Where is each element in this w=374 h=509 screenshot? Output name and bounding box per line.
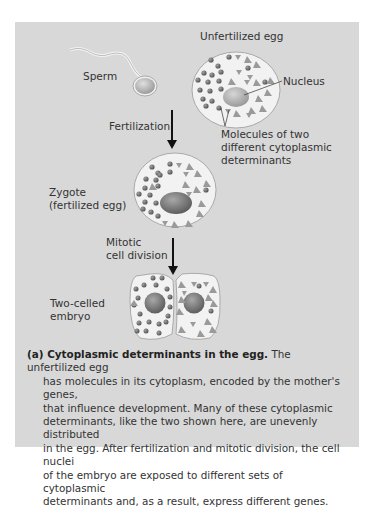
caption-title: (a) Cytoplasmic determinants in the egg. [27,348,268,360]
two-celled-label-line2: embryo [50,310,90,323]
two-celled-embryo-icon [130,273,220,339]
caption-line: determinants, like the two shown here, a… [27,415,347,442]
caption-line: that influence development. Many of thes… [27,402,347,415]
mitotic-label-line1: Mitotic [106,236,141,249]
unfertilized-egg-label: Unfertilized egg [200,30,283,43]
caption-line: has molecules in its cytoplasm, encoded … [27,375,347,402]
mitotic-label-line2: cell division [106,249,168,262]
caption-line: of the embryo are exposed to different s… [27,469,347,496]
mitotic-division-arrow-icon [168,238,178,275]
molecules-label-line1: Molecules of two [221,128,309,141]
nucleus-label: Nucleus [283,75,325,88]
caption-line: in the egg. After fertilization and mito… [27,442,347,469]
fertilization-label: Fertilization [109,120,170,133]
molecules-label-line2: different cytoplasmic [221,141,332,154]
figure-caption: (a) Cytoplasmic determinants in the egg.… [27,348,347,509]
molecules-label-line3: determinants [221,154,291,167]
zygote-label-line2: (fertilized egg) [49,199,126,212]
two-celled-label-line1: Two-celled [50,297,105,310]
sperm-label: Sperm [83,70,117,83]
zygote-label-line1: Zygote [49,186,86,199]
unfertilized-egg-icon [192,52,282,128]
zygote-icon [134,153,216,228]
caption-line: determinants and, as a result, express d… [27,495,347,508]
